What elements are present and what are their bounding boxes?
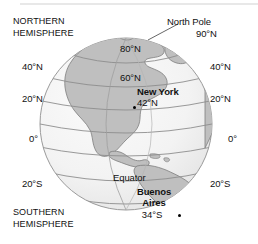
city-latitude-new-york: 42°N xyxy=(137,97,158,108)
city-marker-new-york xyxy=(133,106,136,109)
africa-limb-landmass xyxy=(205,69,222,148)
latitude-label-right-20s: 20°S xyxy=(210,178,230,189)
city-label-buenos: Buenos xyxy=(126,186,182,197)
latitude-label-left-20n: 20°N xyxy=(22,93,43,104)
city-label-new-york: New York xyxy=(137,86,179,97)
city-marker-buenos-aires xyxy=(178,214,181,217)
latitude-label-80n: 80°N xyxy=(120,43,141,54)
city-label-aires: Aires xyxy=(126,197,182,208)
northern-hemisphere-line2: HEMISPHERE xyxy=(13,28,74,40)
latitude-label-left-20s: 20°S xyxy=(22,178,42,189)
city-latitude-buenos-aires: 34°S xyxy=(126,209,178,220)
globe-diagram-figure: NORTHERN HEMISPHERE SOUTHERN HEMISPHERE … xyxy=(0,0,258,244)
latitude-label-right-40n: 40°N xyxy=(210,61,231,72)
latitude-label-left-0: 0° xyxy=(29,133,38,144)
equator-label: Equator xyxy=(113,172,146,183)
southern-hemisphere-label: SOUTHERN HEMISPHERE xyxy=(13,207,74,230)
northern-hemisphere-label: NORTHERN HEMISPHERE xyxy=(13,16,74,39)
north-pole-label: North Pole xyxy=(167,16,211,27)
caribbean-island-2 xyxy=(164,158,170,162)
latitude-label-right-20n: 20°N xyxy=(210,93,231,104)
north-pole-latitude-label: 90°N xyxy=(196,28,217,39)
latitude-label-60n: 60°N xyxy=(120,72,141,83)
arctic-island-small xyxy=(138,30,152,38)
southern-hemisphere-line1: SOUTHERN xyxy=(13,207,74,219)
latitude-label-right-0: 0° xyxy=(228,133,237,144)
southern-hemisphere-line2: HEMISPHERE xyxy=(13,219,74,231)
northern-hemisphere-line1: NORTHERN xyxy=(13,16,74,28)
latitude-label-left-40n: 40°N xyxy=(22,61,43,72)
